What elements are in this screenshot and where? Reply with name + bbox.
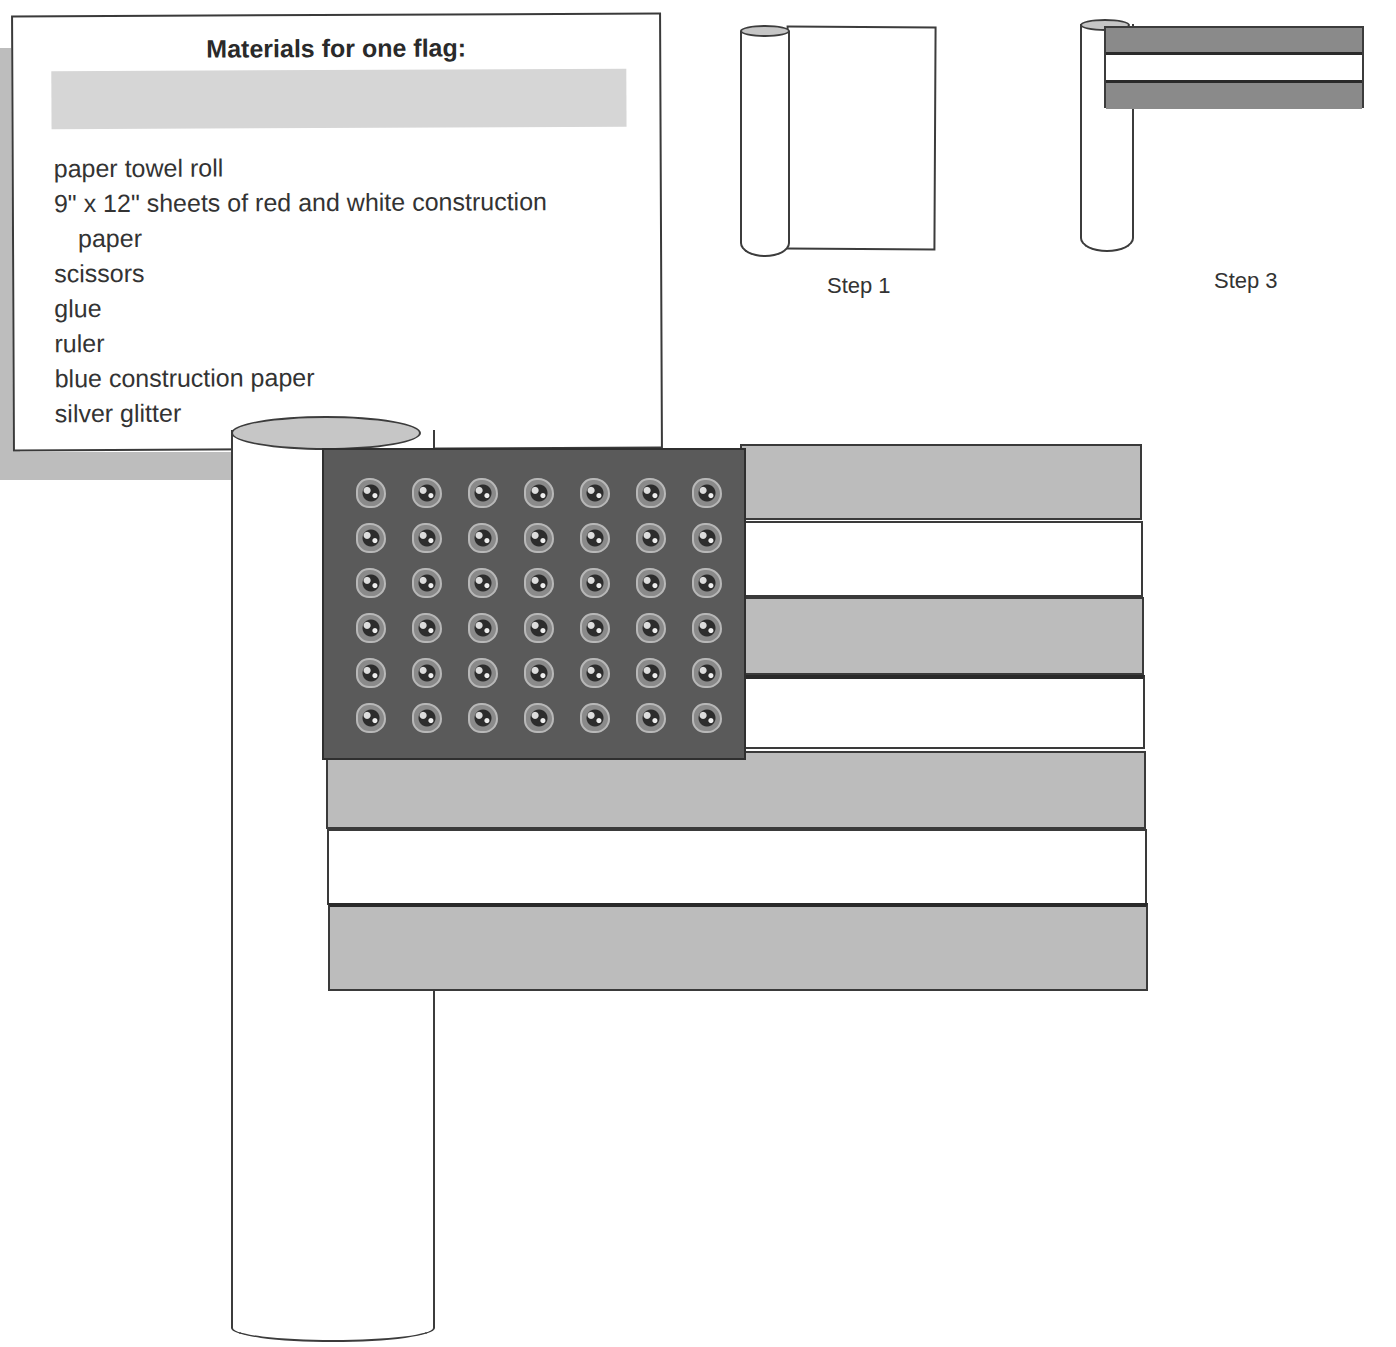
striped-flag	[1104, 26, 1364, 108]
glitter-star-icon	[522, 656, 554, 688]
glitter-star-icon	[410, 521, 442, 553]
glitter-star-icon	[690, 611, 722, 643]
glitter-star-icon	[522, 611, 554, 643]
material-item: paper towel roll	[54, 149, 547, 186]
glitter-star-icon	[354, 611, 386, 643]
glitter-star-icon	[634, 566, 666, 598]
glitter-star-icon	[690, 701, 722, 733]
glitter-star-icon	[578, 476, 610, 508]
glitter-star-icon	[578, 611, 610, 643]
white-stripe-3	[327, 829, 1147, 905]
card-header-bar	[51, 69, 626, 130]
paper-towel-roll	[740, 31, 790, 257]
star-field	[354, 476, 746, 746]
glitter-star-icon	[634, 521, 666, 553]
step-3-label: Step 3	[1214, 268, 1278, 294]
glitter-star-icon	[466, 476, 498, 508]
glitter-star-icon	[522, 701, 554, 733]
red-stripe	[1106, 28, 1362, 55]
glitter-star-icon	[690, 521, 722, 553]
glitter-star-icon	[354, 656, 386, 688]
glitter-star-icon	[634, 476, 666, 508]
red-stripe-3	[326, 751, 1146, 829]
glitter-star-icon	[410, 566, 442, 598]
material-item: 9" x 12" sheets of red and white constru…	[54, 184, 547, 221]
red-stripe-4	[328, 903, 1148, 991]
glitter-star-icon	[354, 701, 386, 733]
glitter-star-icon	[522, 521, 554, 553]
glitter-star-icon	[354, 521, 386, 553]
material-item: glue	[54, 289, 547, 326]
glitter-star-icon	[578, 566, 610, 598]
materials-list: paper towel roll 9" x 12" sheets of red …	[54, 149, 548, 431]
glitter-star-icon	[634, 656, 666, 688]
glitter-star-icon	[634, 611, 666, 643]
glitter-star-icon	[466, 521, 498, 553]
red-stripe-2	[742, 597, 1144, 675]
glitter-star-icon	[578, 701, 610, 733]
materials-title: Materials for one flag:	[13, 33, 659, 65]
glitter-star-icon	[522, 566, 554, 598]
blue-canton	[322, 448, 746, 760]
glitter-star-icon	[354, 476, 386, 508]
glitter-star-icon	[690, 476, 722, 508]
card-shadow-bottom	[0, 452, 240, 480]
glitter-star-icon	[466, 656, 498, 688]
glitter-star-icon	[410, 701, 442, 733]
roll-top-icon	[231, 416, 421, 450]
glitter-star-icon	[466, 566, 498, 598]
white-stripe-1	[740, 521, 1143, 597]
glitter-star-icon	[410, 656, 442, 688]
glitter-star-icon	[578, 656, 610, 688]
glitter-star-icon	[634, 701, 666, 733]
glitter-star-icon	[466, 611, 498, 643]
step-1-label: Step 1	[827, 273, 891, 299]
glitter-star-icon	[354, 566, 386, 598]
glitter-star-icon	[522, 476, 554, 508]
glitter-star-icon	[466, 701, 498, 733]
glitter-star-icon	[410, 476, 442, 508]
material-item: blue construction paper	[55, 359, 548, 396]
roll-top-icon	[740, 25, 790, 37]
material-item: paper	[54, 219, 547, 256]
red-stripe-1	[740, 444, 1142, 520]
material-item: scissors	[54, 254, 547, 291]
white-stripe-2	[744, 675, 1145, 749]
red-stripe	[1106, 80, 1362, 109]
glitter-star-icon	[690, 566, 722, 598]
material-item: ruler	[54, 324, 547, 361]
glitter-star-icon	[690, 656, 722, 688]
materials-card: Materials for one flag: paper towel roll…	[11, 13, 663, 452]
glitter-star-icon	[410, 611, 442, 643]
white-sheet	[785, 26, 936, 251]
glitter-star-icon	[578, 521, 610, 553]
